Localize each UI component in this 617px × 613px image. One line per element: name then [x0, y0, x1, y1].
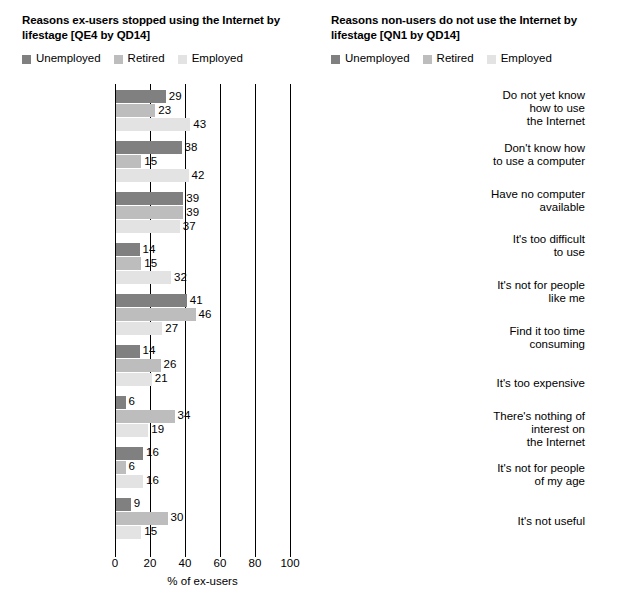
axis-tick-label: 0 [112, 558, 118, 570]
bar-retired [115, 512, 168, 525]
bar-employed [115, 220, 180, 233]
bar-value-label: 42 [189, 170, 205, 182]
category-label: Have no computer available [410, 188, 585, 214]
axis-tick-label: 40 [179, 558, 192, 570]
bar-value-label: 21 [152, 374, 168, 386]
bar-value-label: 14 [140, 244, 156, 256]
bar-value-label: 34 [175, 411, 191, 423]
bar-value-label: 16 [143, 475, 159, 487]
page-title-left: Reasons ex-users stopped using the Inter… [22, 13, 294, 42]
bar-unemployed [115, 243, 140, 256]
legend-item-retired: Retired [423, 53, 474, 65]
legend-item-unemployed: Unemployed [22, 53, 101, 65]
bar-unemployed [115, 90, 166, 103]
bar-retired [115, 461, 126, 474]
bar-value-label: 14 [140, 346, 156, 358]
bar-employed [115, 118, 190, 131]
axis-tick-label: 100 [280, 558, 299, 570]
chart-panel-non-users: Reasons non-users do not use the Interne… [309, 0, 617, 613]
legend-swatch-retired [114, 55, 123, 64]
bar-employed [115, 169, 189, 182]
legend-item-employed: Employed [178, 53, 243, 65]
legend-label-employed: Employed [501, 53, 552, 65]
bar-employed [115, 526, 141, 539]
bar-unemployed [115, 294, 187, 307]
bar-unemployed [115, 498, 131, 511]
category-label: It's not useful [410, 515, 585, 528]
bar-group: 16616 [115, 447, 290, 489]
legend-swatch-unemployed [22, 55, 31, 64]
legend-left: Unemployed Retired Employed [22, 52, 256, 66]
legend-swatch-retired [423, 55, 432, 64]
category-label: It's not for people like me [410, 279, 585, 305]
bar-retired [115, 359, 161, 372]
bar-value-label: 23 [155, 105, 171, 117]
legend-label-retired: Retired [437, 53, 474, 65]
legend-item-employed: Employed [487, 53, 552, 65]
bar-value-label: 38 [182, 142, 198, 154]
bar-value-label: 37 [180, 221, 196, 233]
bar-value-label: 43 [190, 119, 206, 131]
legend-label-unemployed: Unemployed [345, 53, 410, 65]
bar-group: 93015 [115, 498, 290, 540]
bar-value-label: 19 [148, 425, 164, 437]
page-title-right: Reasons non-users do not use the Interne… [331, 13, 603, 42]
bar-value-label: 15 [141, 156, 157, 168]
bar-group: 414627 [115, 294, 290, 336]
bar-group: 381542 [115, 141, 290, 183]
chart-page: Reasons ex-users stopped using the Inter… [0, 0, 617, 613]
bar-group: 63419 [115, 396, 290, 438]
bar-value-label: 46 [196, 309, 212, 321]
legend-swatch-employed [178, 55, 187, 64]
bar-value-label: 27 [162, 323, 178, 335]
axis-tick-label: 80 [249, 558, 262, 570]
bar-value-label: 15 [141, 526, 157, 538]
bar-group: 393937 [115, 192, 290, 234]
bar-unemployed [115, 396, 126, 409]
bar-value-label: 16 [143, 447, 159, 459]
bar-unemployed [115, 141, 182, 154]
legend-item-retired: Retired [114, 53, 165, 65]
legend-label-unemployed: Unemployed [36, 53, 101, 65]
bar-value-label: 29 [166, 91, 182, 103]
category-label: Don't know how to use a computer [410, 142, 585, 168]
bar-employed [115, 322, 162, 335]
category-label: Find it too time consuming [410, 325, 585, 351]
bar-value-label: 39 [183, 193, 199, 205]
bar-value-label: 15 [141, 258, 157, 270]
bar-value-label: 41 [187, 295, 203, 307]
bar-value-label: 39 [183, 207, 199, 219]
bar-group: 142621 [115, 345, 290, 387]
legend-swatch-employed [487, 55, 496, 64]
legend-swatch-unemployed [331, 55, 340, 64]
bar-employed [115, 271, 171, 284]
legend-right: Unemployed Retired Employed [331, 52, 565, 66]
bar-retired [115, 308, 196, 321]
chart-panel-ex-users: Reasons ex-users stopped using the Inter… [0, 0, 308, 613]
bar-value-label: 32 [171, 272, 187, 284]
bar-value-label: 26 [161, 360, 177, 372]
category-label: Do not yet know how to use the Internet [410, 89, 585, 128]
y-axis-line [115, 84, 116, 552]
x-axis-label: % of ex-users [115, 576, 290, 588]
legend-item-unemployed: Unemployed [331, 53, 410, 65]
bar-group: 141532 [115, 243, 290, 285]
category-label: It's too expensive [410, 377, 585, 390]
legend-label-employed: Employed [192, 53, 243, 65]
bar-retired [115, 104, 155, 117]
bar-value-label: 9 [131, 498, 140, 510]
bar-retired [115, 257, 141, 270]
category-label: It's too difficult to use [410, 233, 585, 259]
axis-tick-label: 60 [214, 558, 227, 570]
legend-label-retired: Retired [128, 53, 165, 65]
bar-retired [115, 155, 141, 168]
bar-unemployed [115, 447, 143, 460]
bar-unemployed [115, 192, 183, 205]
bar-employed [115, 424, 148, 437]
category-label: It's not for people of my age [410, 462, 585, 488]
category-label: There's nothing of interest on the Inter… [410, 410, 585, 449]
bar-unemployed [115, 345, 140, 358]
plot-area-ex-users: 020406080100% of ex-users292343No longer… [115, 84, 290, 552]
gridline [290, 84, 291, 552]
bar-value-label: 6 [126, 461, 135, 473]
